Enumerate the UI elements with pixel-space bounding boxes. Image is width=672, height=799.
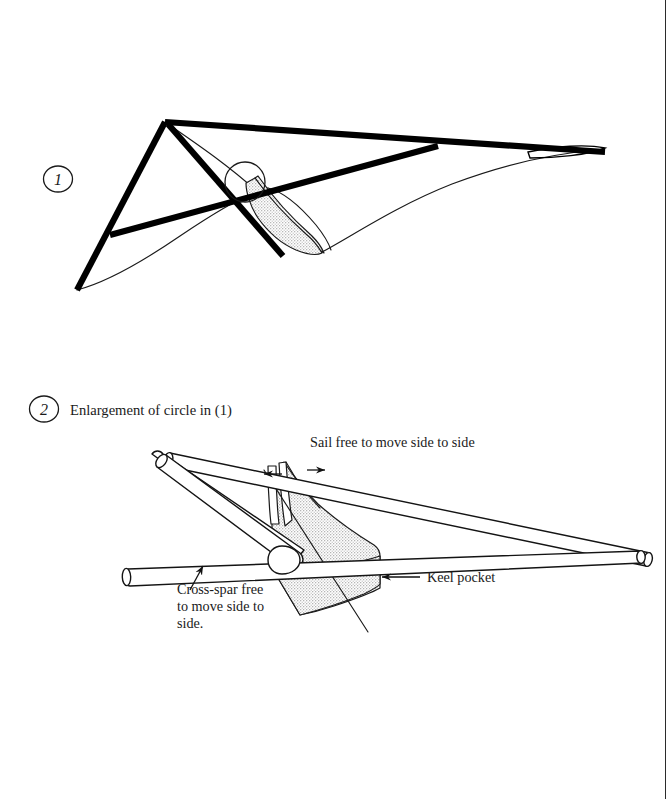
- cross-spar-label-line-2: to move side to: [177, 598, 264, 614]
- step-marker-2-label: 2: [40, 401, 48, 418]
- keel-pocket-label: Keel pocket: [427, 569, 495, 585]
- page-canvas: 1 2 Enlargement of circle in (1: [0, 0, 672, 799]
- cross-spar-label-line-3: side.: [177, 615, 203, 631]
- figure-2-enlargement: 2 Enlargement of circle in (1): [0, 0, 672, 799]
- sail-free-label: Sail free to move side to side: [310, 434, 475, 450]
- cross-spar-label-line-1: Cross-spar free: [177, 581, 263, 597]
- figure-2-caption: Enlargement of circle in (1): [70, 402, 232, 419]
- cross-spar-label: Cross-spar free to move side to side.: [177, 581, 264, 631]
- spar-keel-joint: [268, 546, 300, 574]
- step-marker-2: 2: [30, 396, 59, 422]
